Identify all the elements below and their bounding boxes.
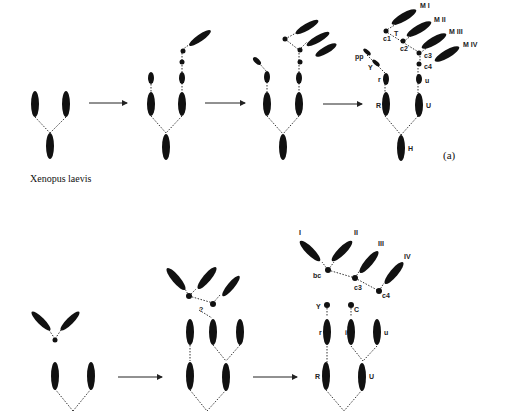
panel-b-stage-1 — [29, 309, 95, 411]
label-III: III — [378, 240, 384, 247]
label-T: T — [394, 30, 399, 37]
label-c3: c3 — [424, 52, 432, 59]
skeletal-element — [358, 363, 366, 391]
label-c3: c3 — [354, 284, 362, 291]
label-c2: c2 — [400, 45, 408, 52]
carpal-dot — [298, 48, 303, 53]
skeletal-element — [347, 319, 355, 345]
limb-development-diagram: pp Y r R H U u c1 T c2 c3 c4 M I M II M … — [0, 0, 510, 411]
skeletal-element — [373, 319, 381, 345]
skeletal-element — [297, 238, 322, 263]
skeletal-element — [51, 362, 59, 390]
carpal-dot — [325, 267, 331, 273]
skeletal-element — [323, 319, 331, 345]
skeletal-element — [58, 309, 81, 332]
skeletal-element — [29, 309, 52, 332]
skeletal-element — [236, 319, 244, 345]
skeletal-element — [295, 92, 303, 116]
label-IV: IV — [404, 253, 411, 260]
skeletal-element — [179, 72, 185, 84]
carpal-dot — [384, 29, 389, 34]
skeletal-element — [162, 134, 170, 160]
skeletal-element — [252, 56, 263, 67]
carpal-dot — [401, 39, 406, 44]
label-pp: pp — [355, 53, 364, 61]
skeletal-element — [383, 73, 389, 85]
skeletal-element — [322, 362, 330, 390]
label-II: II — [354, 229, 358, 236]
skeletal-element — [263, 92, 271, 116]
panel-a-stage-4: pp Y r R H U u c1 T c2 c3 c4 M I M II M … — [355, 2, 478, 161]
skeletal-element — [186, 362, 194, 390]
skeletal-element — [209, 319, 217, 345]
skeletal-element — [164, 266, 188, 293]
label-question: ? — [199, 306, 203, 313]
carpal-dot — [53, 338, 58, 343]
label-U: U — [426, 102, 431, 109]
panel-b-stage-3: I II III IV bc c3 c4 Y C r i u — [297, 229, 411, 411]
skeletal-element — [186, 319, 194, 345]
carpal-dot — [210, 301, 216, 307]
panel-a-stage-3 — [252, 17, 338, 160]
skeletal-element — [314, 41, 338, 59]
label-R: R — [376, 102, 381, 109]
label-bc: bc — [313, 272, 321, 279]
label-u: u — [425, 77, 429, 84]
label-MIV: M IV — [463, 41, 478, 48]
skeletal-element — [382, 260, 406, 287]
carpal-dot — [324, 302, 330, 308]
carpal-dot — [180, 60, 185, 65]
label-R: R — [315, 373, 320, 380]
skeletal-element — [62, 91, 70, 117]
carpal-dot — [186, 293, 192, 299]
panel-b-stage-2: ? — [164, 265, 244, 411]
carpal-dot — [298, 60, 303, 65]
skeletal-element — [357, 249, 381, 276]
skeletal-element — [148, 72, 154, 84]
label-C: C — [354, 306, 359, 313]
skeletal-element — [178, 92, 186, 116]
skeletal-element — [296, 72, 302, 84]
label-r: r — [378, 76, 381, 83]
skeletal-element — [415, 93, 423, 117]
panel-a: pp Y r R H U u c1 T c2 c3 c4 M I M II M … — [30, 2, 478, 184]
label-c1: c1 — [383, 35, 391, 42]
label-c4: c4 — [424, 63, 432, 70]
label-c4: c4 — [382, 292, 390, 299]
panel-a-stage-2 — [147, 28, 213, 160]
label-MIII: M III — [449, 28, 463, 35]
carpal-dot — [181, 49, 186, 54]
skeletal-element — [87, 362, 95, 390]
skeletal-element — [397, 135, 405, 161]
label-MI: M I — [420, 2, 430, 9]
skeletal-element — [382, 92, 390, 116]
label-u: u — [384, 329, 388, 336]
carpal-dot — [352, 275, 358, 281]
skeletal-element — [222, 363, 230, 391]
skeletal-element — [416, 74, 422, 84]
skeletal-element — [220, 274, 242, 298]
label-H: H — [408, 145, 413, 152]
panel-a-stage-1 — [31, 91, 70, 159]
skeletal-element — [46, 133, 54, 159]
panel-a-label: (a) — [443, 149, 456, 162]
label-Y: Y — [316, 303, 321, 310]
skeletal-element — [279, 134, 287, 160]
label-Y: Y — [368, 64, 373, 71]
skeletal-element — [329, 238, 354, 263]
skeletal-element — [147, 92, 155, 116]
carpal-dot — [283, 37, 288, 42]
skeletal-element — [390, 7, 418, 28]
label-MII: M II — [434, 16, 446, 23]
skeletal-element — [294, 17, 320, 36]
label-r: r — [319, 329, 322, 336]
panel-b: ? I — [29, 229, 411, 411]
label-i: i — [345, 329, 347, 336]
species-label: Xenopus laevis — [30, 173, 91, 184]
skeletal-element — [433, 44, 461, 65]
skeletal-element — [371, 59, 380, 68]
skeletal-element — [264, 71, 270, 83]
carpal-dot — [417, 51, 422, 56]
skeletal-element — [420, 31, 448, 52]
skeletal-element — [405, 19, 433, 40]
